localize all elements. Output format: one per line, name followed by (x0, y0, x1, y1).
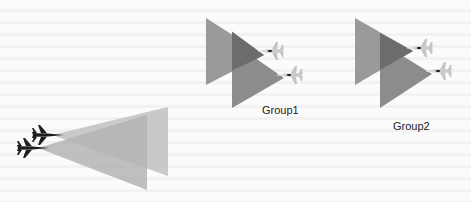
group2-plane-2-icon (426, 62, 452, 80)
group2-cones (355, 18, 432, 108)
diagram-svg (0, 0, 471, 202)
group1-cones (206, 18, 284, 108)
diagram-canvas: Group1 Group2 (0, 0, 471, 202)
group1-plane-2-icon (277, 66, 303, 84)
formation-cones (38, 107, 168, 190)
group2-plane-1-icon (407, 39, 433, 57)
group1-label: Group1 (262, 104, 299, 116)
group1-plane-1-icon (258, 42, 284, 60)
group2-label: Group2 (393, 120, 430, 132)
